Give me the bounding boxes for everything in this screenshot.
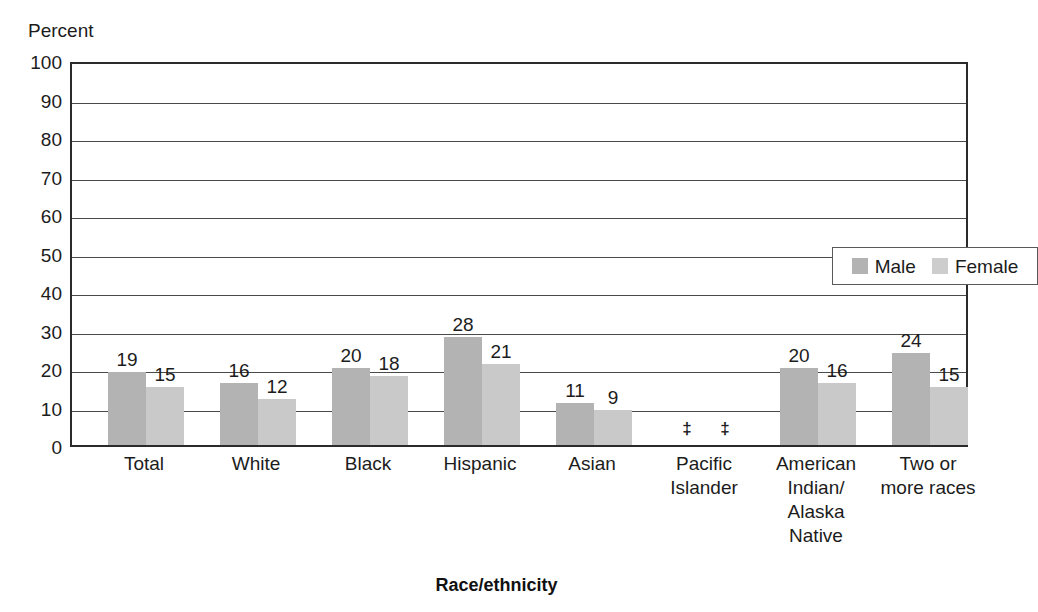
suppressed-marker-male: ‡: [668, 420, 706, 437]
y-tick-30: 30: [4, 323, 62, 342]
legend-label-female: Female: [955, 257, 1018, 276]
bar-male: [220, 383, 258, 445]
legend-swatch-male-icon: [852, 258, 868, 274]
bar-value-label-female: 12: [254, 377, 300, 396]
legend-entry-male: Male: [852, 257, 916, 276]
x-axis-title: Race/ethnicity: [0, 575, 993, 596]
x-category-label: Asian: [536, 452, 648, 476]
bar-male: [444, 337, 482, 445]
bar-value-label-male: 28: [440, 315, 486, 334]
bar-value-label-female: 18: [366, 354, 412, 373]
bar-male: [332, 368, 370, 445]
chart-legend: Male Female: [832, 247, 1038, 285]
y-tick-40: 40: [4, 284, 62, 303]
x-axis-category-labels: TotalWhiteBlackHispanicAsianPacificIslan…: [70, 452, 968, 562]
x-category-label: Black: [312, 452, 424, 476]
y-tick-10: 10: [4, 400, 62, 419]
x-category-label: White: [200, 452, 312, 476]
bar-male: [108, 372, 146, 445]
bar-group: 2018: [314, 64, 426, 445]
legend-entry-female: Female: [932, 257, 1018, 276]
bar-group: 119: [538, 64, 650, 445]
bar-female: [930, 387, 968, 445]
bar-value-label-female: 15: [142, 365, 188, 384]
bar-female: [258, 399, 296, 445]
y-tick-80: 80: [4, 130, 62, 149]
bar-value-label-female: 16: [814, 361, 860, 380]
bar-group: 1915: [90, 64, 202, 445]
y-tick-70: 70: [4, 169, 62, 188]
legend-swatch-female-icon: [932, 258, 948, 274]
bar-male: [892, 353, 930, 445]
plot-area: 1915161220182821119‡‡20162415 Male Femal…: [70, 62, 968, 447]
suppressed-marker-female: ‡: [706, 420, 744, 437]
bar-female: [370, 376, 408, 445]
bar-female: [594, 410, 632, 445]
x-category-label: Hispanic: [424, 452, 536, 476]
x-category-label: PacificIslander: [648, 452, 760, 500]
y-tick-60: 60: [4, 207, 62, 226]
bar-value-label-female: 21: [478, 342, 524, 361]
x-category-label: AmericanIndian/AlaskaNative: [760, 452, 872, 548]
bar-female: [482, 364, 520, 445]
bar-male: [780, 368, 818, 445]
bar-female: [818, 383, 856, 445]
y-axis-label: Percent: [28, 20, 93, 42]
y-tick-100: 100: [4, 53, 62, 72]
bar-male: [556, 403, 594, 445]
bar-group: 2821: [426, 64, 538, 445]
y-axis-tick-labels: 1009080706050403020100: [0, 62, 62, 447]
bar-female: [146, 387, 184, 445]
bar-group: ‡‡: [650, 64, 762, 445]
y-tick-90: 90: [4, 92, 62, 111]
x-category-label: Total: [88, 452, 200, 476]
legend-label-male: Male: [875, 257, 916, 276]
x-category-label: Two ormore races: [872, 452, 984, 500]
bar-group: 1612: [202, 64, 314, 445]
bar-value-label-female: 15: [926, 365, 972, 384]
y-tick-50: 50: [4, 246, 62, 265]
bar-value-label-male: 24: [888, 331, 934, 350]
y-tick-0: 0: [4, 438, 62, 457]
bar-value-label-female: 9: [590, 388, 636, 407]
y-tick-20: 20: [4, 361, 62, 380]
